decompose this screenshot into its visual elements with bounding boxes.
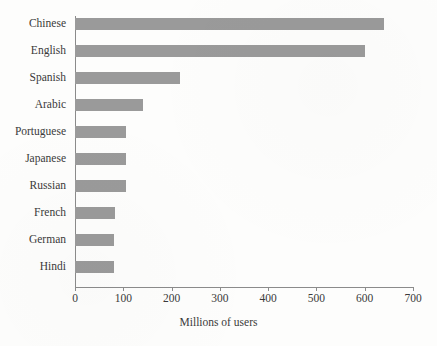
x-axis-tick-label: 700 <box>404 292 421 305</box>
bar <box>75 153 126 165</box>
bar-chart: ChineseEnglishSpanishArabicPortugueseJap… <box>0 0 437 346</box>
x-axis-tick-label: 600 <box>356 292 373 305</box>
x-axis-tick-label: 300 <box>211 292 228 305</box>
x-axis-tick-mark <box>316 287 317 291</box>
bar <box>75 72 180 84</box>
x-axis-tick-mark <box>75 287 76 291</box>
category-label: Chinese <box>29 17 66 29</box>
x-axis-tick-label: 200 <box>163 292 180 305</box>
x-axis-tick-label: 400 <box>260 292 277 305</box>
x-axis-tick-label: 100 <box>115 292 132 305</box>
category-label: Japanese <box>25 152 66 164</box>
x-axis-title: Millions of users <box>0 316 437 328</box>
bar <box>75 234 114 246</box>
x-axis-tick-mark <box>268 287 269 291</box>
bar <box>75 18 384 30</box>
x-axis-line <box>75 287 414 288</box>
category-label: French <box>34 206 66 218</box>
bar <box>75 126 126 138</box>
bar <box>75 207 115 219</box>
x-axis-tick-mark <box>220 287 221 291</box>
category-label: Hindi <box>40 260 66 272</box>
bar <box>75 261 114 273</box>
bar <box>75 45 365 57</box>
plot-area: ChineseEnglishSpanishArabicPortugueseJap… <box>0 0 437 346</box>
category-label: German <box>29 233 66 245</box>
bar <box>75 180 126 192</box>
category-label: Portuguese <box>15 125 66 137</box>
category-label: Spanish <box>30 71 66 83</box>
x-axis-tick-mark <box>365 287 366 291</box>
x-axis-tick-label: 500 <box>308 292 325 305</box>
category-label: Arabic <box>35 98 66 110</box>
x-axis-tick-mark <box>172 287 173 291</box>
x-axis-tick-label: 0 <box>72 292 78 305</box>
x-axis-tick-mark <box>413 287 414 291</box>
x-axis-tick-mark <box>123 287 124 291</box>
category-label: Russian <box>30 179 66 191</box>
bar <box>75 99 143 111</box>
category-label: English <box>31 44 66 56</box>
